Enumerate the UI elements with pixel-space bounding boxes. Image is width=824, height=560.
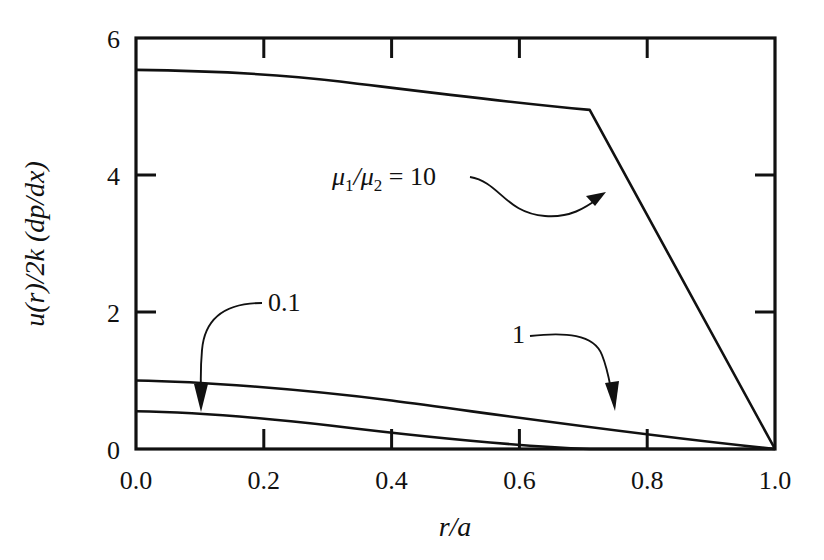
x-ticklabel-1: 0.2 [248,466,281,495]
x-axis-ticks-top [264,38,647,58]
y-axis-label: u(r)/2k (dp/dx) [19,161,50,327]
annot-1-label: 1 [512,320,525,349]
annot-mu-10-label: μ1/μ2 = 10 [331,162,436,195]
curve-mu-0p1 [136,411,775,449]
x-ticklabel-3: 0.6 [503,466,536,495]
y-ticklabel-0: 0 [107,436,120,465]
plot-frame [136,38,775,449]
annot-0p1-arrowhead [194,384,208,412]
annot-mu-10-group: μ1/μ2 = 10 [331,162,606,216]
curve-mu-10 [136,70,775,449]
annot-0p1-group: 0.1 [194,288,301,412]
x-ticklabel-0: 0.0 [120,466,153,495]
y-ticklabel-4: 4 [107,162,120,191]
annot-0p1-label: 0.1 [268,288,301,317]
annot-1-leader [530,334,612,394]
y-ticklabel-6: 6 [107,25,120,54]
annot-1-group: 1 [512,320,619,411]
x-ticklabel-5: 1.0 [759,466,792,495]
y-ticklabel-2: 2 [107,299,120,328]
annot-1-arrowhead [605,381,619,411]
annot-0p1-leader [201,303,262,396]
y-axis-ticks-right [755,175,775,312]
annot-mu-10-leader [470,177,599,216]
figure-container: μ1/μ2 = 10 0.1 1 6 4 2 0 0.0 0.2 0.4 0.6… [0,0,824,560]
y-axis-ticks-left [136,175,156,312]
x-ticklabel-4: 0.8 [631,466,664,495]
chart-svg: μ1/μ2 = 10 0.1 1 6 4 2 0 0.0 0.2 0.4 0.6… [0,0,824,560]
x-ticklabel-2: 0.4 [375,466,408,495]
x-axis-label: r/a [439,511,472,542]
